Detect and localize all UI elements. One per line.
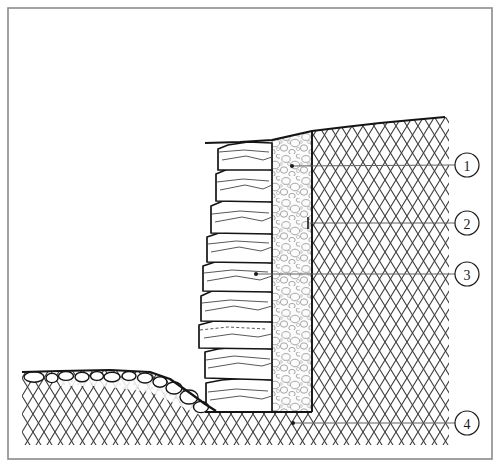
retaining-wall-diagram: 1 2 3 4 xyxy=(0,0,500,467)
callout-4-dot xyxy=(291,421,295,425)
stone-block xyxy=(205,346,272,380)
callout-1-label: 1 xyxy=(464,159,471,174)
callout-1-dot xyxy=(290,164,294,168)
stone-block xyxy=(207,230,272,263)
callout-2-label: 2 xyxy=(464,217,471,232)
figure-root: 1 2 3 4 xyxy=(0,0,500,467)
stone-block-cap xyxy=(218,142,272,170)
stone-block xyxy=(216,166,272,202)
stone-block xyxy=(203,259,272,292)
callout-3-label: 3 xyxy=(464,268,471,283)
gravel-drainage-layer xyxy=(272,131,312,412)
callout-4-label: 4 xyxy=(464,417,471,432)
stone-block xyxy=(201,288,272,322)
callout-3-dot xyxy=(254,272,258,276)
stone-block xyxy=(211,198,272,234)
stone-block xyxy=(206,378,272,412)
